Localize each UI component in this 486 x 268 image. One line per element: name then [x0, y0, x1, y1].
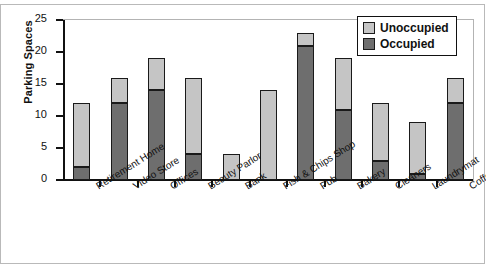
y-tick: 20	[56, 51, 63, 53]
bar-segment-unoccupied	[73, 103, 90, 167]
legend-swatch-icon	[363, 22, 375, 34]
y-tick-label: 25	[35, 12, 47, 24]
bar-segment-occupied	[297, 46, 314, 180]
chart-legend: UnoccupiedOccupied	[357, 16, 457, 56]
y-tick: 25	[56, 19, 63, 21]
bar-segment-unoccupied	[297, 33, 314, 46]
bar-fish-chips-shop[interactable]	[260, 90, 277, 180]
bar-segment-unoccupied	[185, 78, 202, 155]
bar-retirement-home[interactable]	[73, 103, 90, 180]
x-axis-label: Cleaners	[393, 182, 399, 191]
y-axis-title: Parking Spaces	[22, 0, 34, 142]
y-tick: 10	[56, 115, 63, 117]
y-tick-label: 0	[41, 172, 47, 184]
y-tick-label: 10	[35, 108, 47, 120]
y-tick-label: 20	[35, 44, 47, 56]
bar-segment-unoccupied	[335, 58, 352, 109]
legend-item[interactable]: Occupied	[363, 36, 449, 52]
x-axis-label: Beauty Parlor	[206, 182, 212, 191]
bar-pub[interactable]	[297, 33, 314, 180]
x-axis-label: Offices	[168, 182, 174, 191]
x-axis-label: Pub	[318, 182, 324, 191]
bar-segment-unoccupied	[260, 90, 277, 180]
x-axis-label: Laundrymat	[430, 182, 436, 191]
bar-segment-unoccupied	[111, 78, 128, 104]
parking-spaces-chart: Parking Spaces 0510152025 Retirement Hom…	[0, 0, 486, 268]
x-axis-labels: Retirement HomeVideo StoreOfficesBeauty …	[63, 182, 474, 268]
legend-label: Occupied	[380, 37, 435, 51]
legend-swatch-icon	[363, 38, 375, 50]
y-tick: 5	[56, 147, 63, 149]
x-axis-label: Fish & Chips Shop	[281, 182, 287, 191]
x-axis-label: Video Store	[131, 182, 137, 191]
bar-segment-unoccupied	[372, 103, 389, 161]
x-axis-label: Retirement Home	[94, 182, 100, 191]
legend-item[interactable]: Unoccupied	[363, 20, 449, 36]
bar-segment-unoccupied	[148, 58, 165, 90]
x-axis-label: Bank	[243, 182, 249, 191]
y-tick-label: 15	[35, 76, 47, 88]
bar-segment-occupied	[73, 167, 90, 180]
bar-bakery[interactable]	[335, 58, 352, 180]
y-tick: 0	[56, 179, 63, 181]
y-tick-label: 5	[41, 140, 47, 152]
bar-segment-unoccupied	[447, 78, 464, 104]
legend-label: Unoccupied	[380, 21, 449, 35]
y-axis-line	[63, 19, 65, 181]
y-tick: 15	[56, 83, 63, 85]
x-axis-label: Coffee Shop	[467, 182, 473, 191]
x-axis-label: Bakery	[355, 182, 361, 191]
